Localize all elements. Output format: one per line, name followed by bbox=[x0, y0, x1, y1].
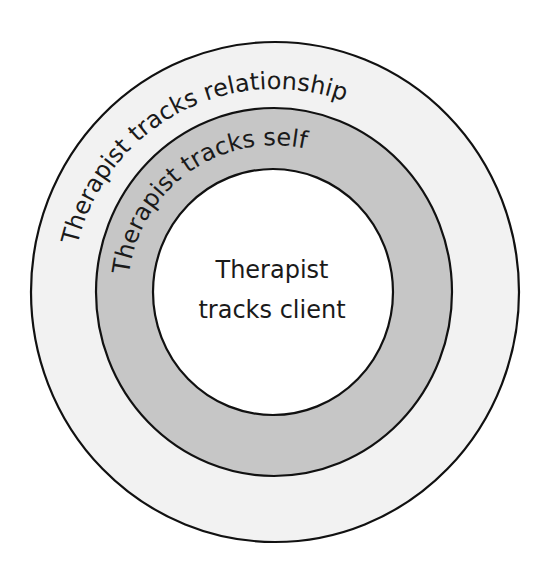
center-label-line2: tracks client bbox=[198, 296, 345, 324]
center-label-line1: Therapist bbox=[214, 256, 328, 284]
inner-circle bbox=[153, 169, 393, 415]
concentric-tracking-diagram: Therapist tracks relationship Therapist … bbox=[0, 0, 546, 571]
